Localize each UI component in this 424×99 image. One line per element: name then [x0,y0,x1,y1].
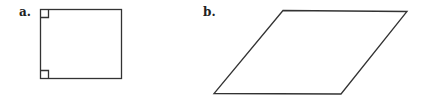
figure-b-parallelogram [214,11,407,95]
square-outline [41,10,122,79]
figures-canvas [0,0,424,99]
parallelogram-outline [214,11,407,95]
right-angle-marker-bottom-left-icon [41,71,49,79]
right-angle-marker-top-left-icon [41,10,49,18]
figure-a-square [41,10,122,79]
